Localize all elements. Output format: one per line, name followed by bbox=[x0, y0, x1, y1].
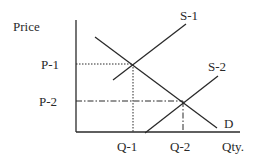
curve-label-s1: S-1 bbox=[180, 8, 198, 23]
diagram-svg: Price P-1 P-2 Q-1 Q-2 Qty. S-1 S-2 D bbox=[0, 0, 261, 161]
x-axis-label: Qty. bbox=[222, 139, 244, 154]
quantity-label-q1: Q-1 bbox=[117, 139, 137, 154]
curve-label-d: D bbox=[224, 116, 233, 131]
curve-label-s2: S-2 bbox=[208, 59, 226, 74]
supply-curve-s2 bbox=[145, 76, 218, 133]
price-label-p2: P-2 bbox=[39, 94, 57, 109]
quantity-label-q2: Q-2 bbox=[170, 139, 190, 154]
demand-curve bbox=[95, 37, 217, 128]
supply-demand-diagram: Price P-1 P-2 Q-1 Q-2 Qty. S-1 S-2 D bbox=[0, 0, 261, 161]
supply-curve-s1 bbox=[113, 24, 186, 80]
y-axis-label: Price bbox=[13, 19, 40, 34]
price-label-p1: P-1 bbox=[41, 57, 59, 72]
